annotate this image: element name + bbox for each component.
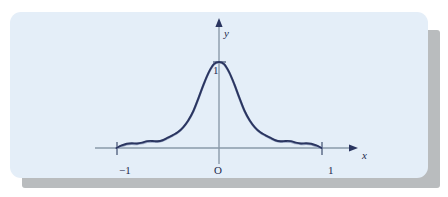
y-axis-arrow-icon	[215, 18, 222, 27]
x-tick-label-pos1: 1	[328, 165, 334, 176]
x-axis-arrow-icon	[349, 144, 358, 151]
y-axis-label: y	[224, 28, 229, 39]
x-axis-label: x	[362, 150, 367, 161]
x-tick-label-neg1: −1	[119, 165, 131, 176]
plot-area: y x O 1 −1 1	[10, 12, 428, 178]
figure-root: y x O 1 −1 1	[0, 0, 448, 197]
y-tick-label-1: 1	[213, 65, 219, 76]
origin-label: O	[214, 165, 222, 176]
